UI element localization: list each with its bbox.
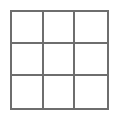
grid-cell[interactable]	[44, 76, 76, 108]
grid-cell[interactable]	[44, 12, 76, 44]
grid-3x3[interactable]	[10, 10, 109, 110]
grid-cell[interactable]	[75, 12, 107, 44]
grid-cell[interactable]	[44, 44, 76, 76]
grid-cell[interactable]	[12, 44, 44, 76]
grid-cell[interactable]	[12, 76, 44, 108]
figure-canvas	[0, 0, 118, 120]
grid-cell[interactable]	[75, 76, 107, 108]
grid-cell[interactable]	[75, 44, 107, 76]
grid-cell[interactable]	[12, 12, 44, 44]
